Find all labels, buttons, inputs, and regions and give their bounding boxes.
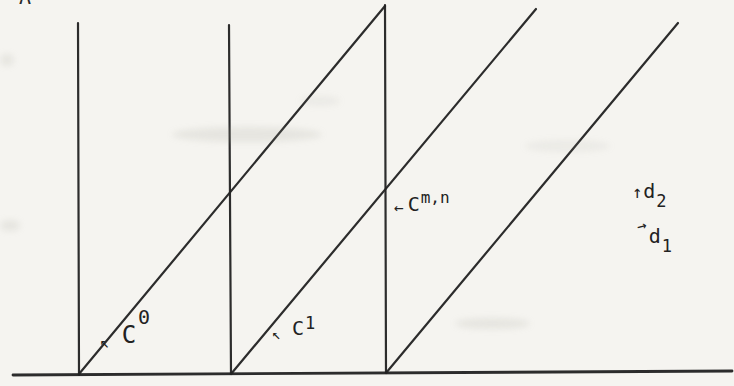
- scanned-figure: A ↖C0 ↖C1 ←Cm,n ↑d2 →d1: [0, 0, 734, 386]
- label-c1: ↖C1: [272, 318, 315, 338]
- cropped-top-glyph-char: A: [19, 0, 31, 6]
- label-d2: ↑d2: [632, 181, 667, 201]
- label-d1: →d1: [637, 226, 672, 246]
- label-d1-subscript: 1: [662, 238, 672, 255]
- paper-smudge: [0, 220, 20, 231]
- cropped-top-glyph: A: [19, 0, 37, 6]
- label-cmn: ←Cm,n: [394, 194, 450, 214]
- paper-smudge: [455, 318, 530, 329]
- arrow-up-icon: ↑: [632, 184, 642, 201]
- label-c1-symbol: C: [292, 318, 304, 338]
- arrow-left-icon: ←: [394, 200, 404, 216]
- paper-smudge: [172, 127, 322, 142]
- label-cmn-superscript: m,n: [421, 190, 450, 206]
- label-c1-superscript: 1: [305, 315, 315, 332]
- label-d2-subscript: 2: [656, 193, 666, 210]
- label-d2-symbol: d: [643, 181, 655, 201]
- label-c0-symbol: C: [122, 323, 136, 347]
- paper-smudge: [525, 140, 610, 152]
- paper-smudge: [300, 96, 340, 106]
- arrow-up-left-icon: ↖: [100, 335, 110, 351]
- label-c0: ↖C0: [100, 323, 150, 347]
- label-d1-symbol: d: [649, 226, 661, 246]
- arrow-up-left-icon: ↖: [272, 327, 281, 342]
- label-cmn-symbol: C: [408, 194, 420, 214]
- paper-smudge: [0, 54, 14, 66]
- label-c0-superscript: 0: [138, 307, 150, 327]
